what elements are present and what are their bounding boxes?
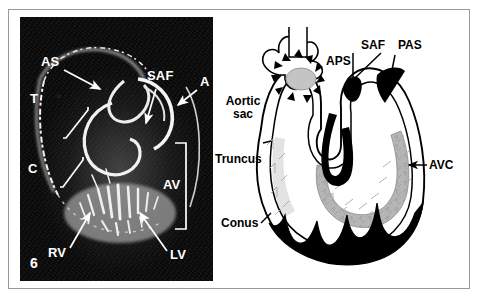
leader-c-bracket xyxy=(60,157,83,187)
schematic-panel: SAF PAS APS Aortic sac Truncus Conus AVC xyxy=(213,17,462,281)
figure-number: 6 xyxy=(30,256,38,270)
schematic-label-truncus: Truncus xyxy=(215,153,262,166)
leader-as xyxy=(64,70,100,89)
schematic-label-saf: SAF xyxy=(361,39,385,52)
schematic-label-aps: APS xyxy=(326,55,351,68)
micrograph-label-av: AV xyxy=(163,178,181,191)
micrograph-label-as: AS xyxy=(41,55,59,68)
schematic-label-pas: PAS xyxy=(398,39,422,52)
aortic-sac-line2: sac xyxy=(233,107,253,121)
truncoconal-ridge xyxy=(84,79,172,175)
leader-a xyxy=(178,90,197,105)
aortopulmonary-septum-blob xyxy=(286,68,316,90)
micrograph-label-lv: LV xyxy=(170,248,186,261)
schematic-label-conus: Conus xyxy=(221,217,258,230)
micrograph-label-a: A xyxy=(200,75,210,88)
micrograph-label-c: C xyxy=(28,162,38,175)
micrograph-label-rv: RV xyxy=(48,246,66,259)
schematic-label-avc: AVC xyxy=(429,159,453,172)
micrograph-label-saf: SAF xyxy=(147,69,174,82)
micrograph-label-t: T xyxy=(30,92,38,105)
figure-container: AS SAF A T C AV RV LV 6 xyxy=(0,0,480,298)
schematic-label-aortic-sac: Aortic sac xyxy=(219,95,267,120)
micrograph-panel: AS SAF A T C AV RV LV 6 xyxy=(20,17,213,281)
